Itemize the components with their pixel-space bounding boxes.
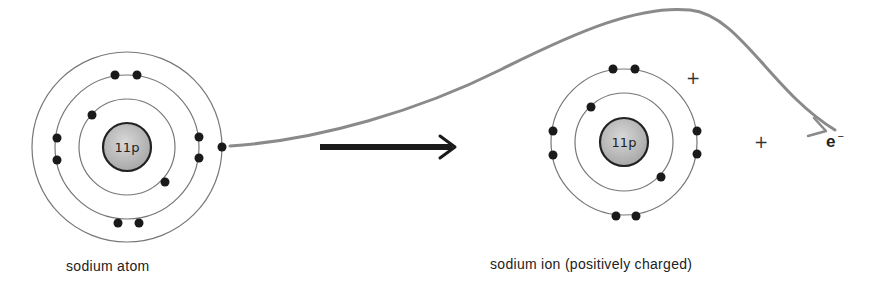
electron — [111, 71, 120, 80]
sodium-ion-caption: sodium ion (positively charged) — [490, 256, 692, 272]
electron — [657, 173, 666, 182]
transition-arrow — [320, 136, 455, 158]
electron — [587, 103, 596, 112]
electron — [195, 133, 204, 142]
electron-path-arrow — [230, 9, 835, 146]
positive-charge-symbol: + — [686, 68, 700, 88]
electron — [549, 151, 558, 160]
electron — [549, 127, 558, 136]
electron — [88, 111, 97, 120]
electron — [631, 65, 640, 74]
electron — [693, 150, 702, 159]
electron — [114, 219, 123, 228]
positive-charge-symbol: + — [754, 132, 768, 152]
sodium-atom: 11p — [32, 52, 227, 242]
electron — [133, 71, 142, 80]
diagram-canvas: 11p 11p — [0, 0, 876, 287]
sodium-atom-caption: sodium atom — [66, 258, 149, 274]
nucleus-label: 11p — [612, 135, 637, 150]
sodium-ion: 11p — [549, 65, 702, 221]
nucleus-label: 11p — [115, 140, 140, 155]
electron — [53, 156, 62, 165]
electron-symbol: e — [826, 132, 835, 151]
electron — [693, 127, 702, 136]
electron-charge: − — [837, 130, 843, 142]
electron — [161, 178, 170, 187]
electron — [609, 65, 618, 74]
electron — [632, 212, 641, 221]
electron — [53, 134, 62, 143]
electron-label: e− — [826, 130, 844, 152]
electron — [612, 212, 621, 221]
electron — [195, 154, 204, 163]
valence-electron — [218, 143, 227, 152]
electron — [135, 219, 144, 228]
